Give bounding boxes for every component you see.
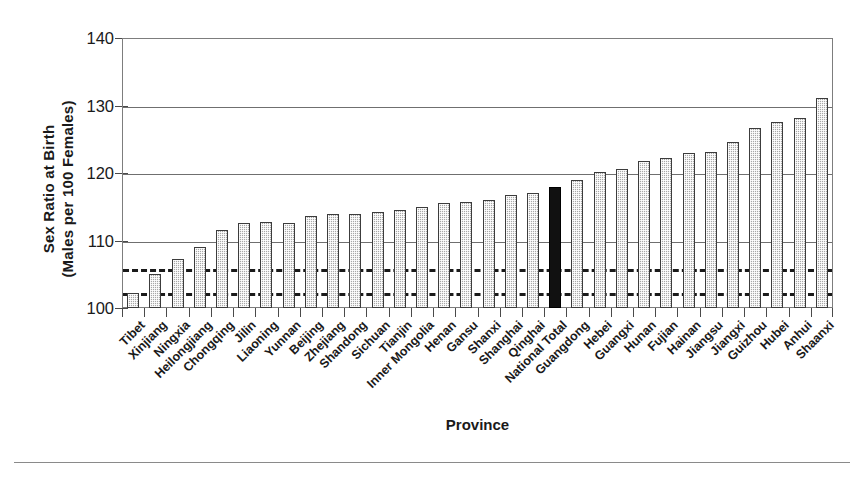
bar — [749, 128, 761, 308]
bar — [794, 118, 806, 308]
bar — [127, 293, 139, 308]
bottom-divider — [14, 462, 850, 463]
y-axis-tick-label: 130 — [62, 96, 114, 115]
x-axis-tick-mark — [122, 308, 123, 317]
y-axis-tick-label: 110 — [62, 231, 114, 250]
bar — [527, 193, 539, 308]
x-axis-title: Province — [122, 416, 833, 433]
y-axis-title: Sex Ratio at Birth (Males per 100 Female… — [39, 39, 77, 339]
bar — [505, 195, 517, 308]
x-axis-category-labels: TibetXinjiangNingxiaHeilongjiangChongqin… — [122, 318, 833, 408]
bar — [771, 122, 783, 308]
bar-chart-figure: Sex Ratio at Birth (Males per 100 Female… — [0, 0, 861, 479]
y-axis-tick-label: 120 — [62, 164, 114, 183]
bar — [705, 152, 717, 308]
bar — [816, 98, 828, 308]
bar — [638, 161, 650, 308]
bar — [727, 142, 739, 308]
bar — [483, 200, 495, 308]
y-axis-tick-label: 140 — [62, 29, 114, 48]
bar — [683, 153, 695, 308]
y-axis-tick-label: 100 — [62, 299, 114, 318]
bar — [438, 203, 450, 308]
